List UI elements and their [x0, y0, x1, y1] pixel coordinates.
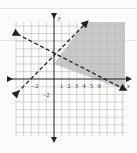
y-tick-neg2: −2: [43, 92, 49, 98]
x-axis-label: x: [126, 83, 130, 89]
x-tick-2: 2: [68, 83, 71, 89]
shaded-region: [54, 22, 125, 90]
x-tick-3: 3: [75, 83, 78, 89]
x-tick-1: 1: [60, 83, 63, 89]
y-axis-label: y: [57, 15, 61, 21]
x-tick-neg2: −2: [32, 83, 38, 89]
x-tick-4: 4: [83, 83, 86, 89]
x-tick-6: 6: [98, 83, 101, 89]
inequality-graph: y x −2 −2 1 2 3 4 5 6: [0, 0, 137, 153]
x-tick-5: 5: [90, 83, 93, 89]
